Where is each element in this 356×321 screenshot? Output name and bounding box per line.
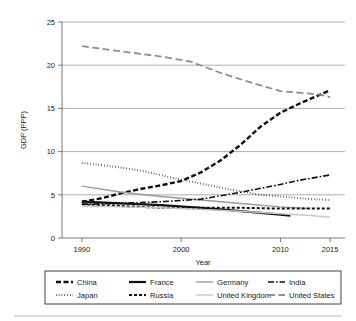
legend-item-china[interactable]: China	[56, 278, 98, 287]
y-tick-label: 15	[47, 104, 55, 113]
legend-item-united-states[interactable]: United States	[268, 291, 335, 300]
legend-label: France	[150, 278, 174, 287]
y-tick-label: 0	[51, 234, 55, 243]
legend-label: Russia	[150, 291, 174, 300]
series-line-united-states	[82, 46, 330, 97]
legend-item-india[interactable]: India	[268, 278, 306, 287]
y-tick-label: 10	[47, 147, 55, 156]
legend-item-france[interactable]: France	[129, 278, 174, 287]
legend-label: Germany	[217, 278, 248, 287]
x-axis-title: Year	[195, 258, 211, 267]
legend-label: India	[289, 278, 306, 287]
gridlines	[62, 22, 345, 195]
x-axis	[62, 238, 345, 242]
data-series	[82, 46, 330, 217]
legend-item-japan[interactable]: Japan	[56, 291, 98, 300]
legend-label: United Kingdom	[217, 291, 271, 300]
x-tick-labels: 1990200020102015	[74, 245, 339, 254]
series-line-germany	[82, 186, 310, 208]
legend-label: Japan	[77, 291, 98, 300]
y-axis-title: GDP (PPP)	[19, 110, 28, 149]
chart-legend: ChinaFranceGermanyIndiaJapanRussiaUnited…	[45, 271, 341, 304]
y-tick-label: 20	[47, 61, 55, 70]
legend-item-germany[interactable]: Germany	[196, 278, 248, 287]
legend-label: China	[77, 278, 98, 287]
y-axis	[58, 22, 62, 238]
y-tick-label: 5	[51, 191, 55, 200]
x-tick-label: 2010	[272, 245, 289, 254]
gdp-ppp-line-chart: 0510152025 1990200020102015 GDP (PPP) Ye…	[0, 0, 356, 321]
y-tick-label: 25	[47, 18, 55, 27]
x-tick-label: 2015	[322, 245, 339, 254]
x-tick-label: 1990	[74, 245, 91, 254]
legend-item-united-kingdom[interactable]: United Kingdom	[196, 291, 271, 300]
legend-label: United States	[289, 291, 335, 300]
chart-figure: 0510152025 1990200020102015 GDP (PPP) Ye…	[0, 0, 356, 321]
x-tick-label: 2000	[173, 245, 190, 254]
y-tick-labels: 0510152025	[47, 18, 55, 243]
legend-item-russia[interactable]: Russia	[129, 291, 174, 300]
